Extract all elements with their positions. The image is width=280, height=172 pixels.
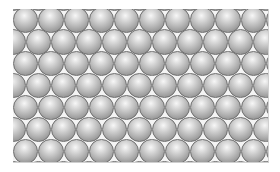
sphere-packing-diagram	[13, 9, 269, 163]
sphere	[64, 139, 89, 163]
sphere	[190, 139, 215, 163]
sphere	[114, 139, 139, 163]
sphere	[165, 139, 190, 163]
sphere	[241, 139, 266, 163]
sphere	[51, 117, 76, 142]
sphere	[228, 117, 253, 142]
sphere	[89, 139, 114, 163]
sphere	[266, 139, 269, 163]
sphere	[139, 139, 164, 163]
sphere	[13, 139, 38, 163]
sphere	[215, 139, 240, 163]
sphere	[38, 139, 63, 163]
